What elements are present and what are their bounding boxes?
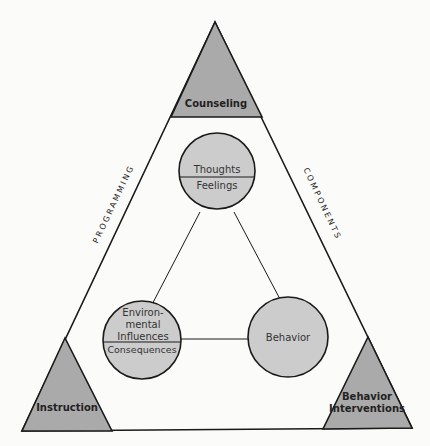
diagram-canvas: Counseling Instruction Behavior Interven… <box>0 0 430 446</box>
label-influences: Influences <box>117 331 168 342</box>
label-consequences: Consequences <box>107 344 176 355</box>
label-instruction: Instruction <box>36 402 98 413</box>
label-behavior: Behavior <box>266 332 311 343</box>
corner-instruction <box>22 338 112 431</box>
corner-behavior-interventions <box>323 337 412 429</box>
label-counseling: Counseling <box>185 98 247 109</box>
label-environ: Environ- <box>122 307 164 318</box>
label-behavior-interventions-1: Behavior <box>342 391 392 402</box>
label-feelings: Feelings <box>197 180 238 191</box>
label-behavior-interventions-2: Interventions <box>329 403 405 414</box>
label-thoughts: Thoughts <box>193 164 241 175</box>
side-label-components: COMPONENTS <box>301 166 343 241</box>
label-mental: mental <box>125 319 160 330</box>
